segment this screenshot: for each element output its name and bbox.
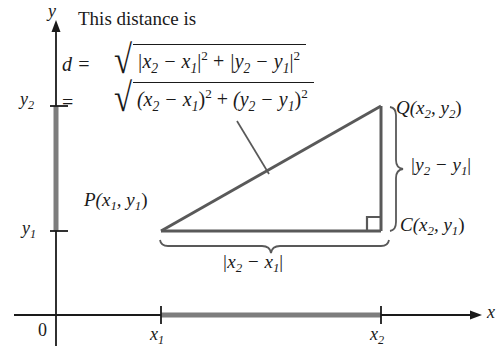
tick-label-y1-base: y <box>22 218 30 238</box>
hbrace-minus: − x <box>242 251 273 272</box>
vertical-brace-label: |y2 − y1| <box>410 155 471 178</box>
x-axis-arrowhead <box>470 311 482 320</box>
point-label-C-comma: , y <box>434 214 452 235</box>
formula-line-1: d = √ |x2 − x1|2 + |y2 − y1|2 <box>62 44 314 82</box>
f1-plus: + <box>208 50 229 72</box>
f2-t1-open: (x <box>137 88 153 110</box>
formula-line-1-radicand: |x2 − x1|2 + |y2 − y1|2 <box>133 44 306 77</box>
tick-label-y2-sub: 2 <box>28 98 34 112</box>
y-axis-arrowhead <box>52 20 61 32</box>
point-label-P: P(x1, y1) <box>84 190 148 213</box>
point-label-C-open: (x <box>413 214 428 235</box>
point-label-C-close: ) <box>458 214 464 235</box>
formula-line-2-radicand: (x2 − x1)2 + (y2 − y1)2 <box>133 82 314 115</box>
tick-label-x1-sub: 1 <box>158 333 164 347</box>
point-label-Q: Q(x2, y2) <box>396 98 462 121</box>
tick-label-x2-sub: 2 <box>378 333 384 347</box>
point-label-Q-open: (x <box>410 97 425 118</box>
origin-label: 0 <box>38 321 47 339</box>
f1-t2-sup: 2 <box>294 48 301 63</box>
radical-sign-icon-2: √ <box>114 82 132 115</box>
tick-label-x2: x2 <box>370 325 384 346</box>
f1-t2-open: |y <box>229 50 243 72</box>
tick-label-y1-sub: 1 <box>30 227 36 241</box>
hbrace-open: |x <box>222 251 236 272</box>
formula-line-1-lead: d = <box>62 44 114 76</box>
point-label-Q-comma: , y <box>431 97 449 118</box>
vbrace-close: | <box>467 154 471 175</box>
f2-t2-open: (y <box>233 88 249 110</box>
vbrace-open: |y <box>410 154 424 175</box>
radical-sign-icon: √ <box>114 44 132 77</box>
distance-formula: d = √ |x2 − x1|2 + |y2 − y1|2 = √ (x2 − … <box>62 44 314 120</box>
formula-line-1-radical: √ |x2 − x1|2 + |y2 − y1|2 <box>114 44 306 77</box>
tick-label-y2: y2 <box>20 90 34 111</box>
tick-label-y1: y1 <box>22 219 36 240</box>
hypotenuse-leader-line <box>237 121 269 174</box>
f1-t1-sup: 2 <box>201 48 208 63</box>
hbrace-close: | <box>279 251 283 272</box>
point-label-Q-name: Q <box>396 97 410 118</box>
point-label-P-open: (x <box>96 189 111 210</box>
tick-label-x2-base: x <box>370 324 378 344</box>
triangle-hypotenuse <box>161 106 381 231</box>
point-label-C: C(x2, y1) <box>400 215 465 238</box>
f2-t2-sup: 2 <box>301 86 308 101</box>
point-label-P-name: P <box>84 189 96 210</box>
f1-t1-open: |x <box>137 50 151 72</box>
vbrace-minus: − y <box>430 154 461 175</box>
f2-t2-sub2: 1 <box>288 99 295 114</box>
f1-t1-minus: − x <box>158 50 190 72</box>
formula-line-2: = √ (x2 − x1)2 + (y2 − y1)2 <box>62 82 314 120</box>
f2-plus: + <box>212 88 233 110</box>
formula-line-2-radical: √ (x2 − x1)2 + (y2 − y1)2 <box>114 82 314 115</box>
figure-caption: This distance is <box>78 9 196 28</box>
formula-line-2-lead: = <box>62 82 114 114</box>
tick-label-x1: x1 <box>150 325 164 346</box>
point-label-P-close: ) <box>141 189 147 210</box>
f1-t2-minus: − y <box>250 50 282 72</box>
distance-formula-figure: This distance is d = √ |x2 − x1|2 + |y2 … <box>0 0 503 360</box>
point-label-C-name: C <box>400 214 413 235</box>
x-axis-label: x <box>487 303 495 321</box>
y-axis-label: y <box>48 2 56 20</box>
tick-label-y2-base: y <box>20 89 28 109</box>
tick-label-x1-base: x <box>150 324 158 344</box>
right-angle-marker <box>367 217 381 231</box>
point-label-P-comma: , y <box>117 189 135 210</box>
f1-t2-sub2: 1 <box>283 61 290 76</box>
point-label-Q-close: ) <box>455 97 461 118</box>
f2-t1-sup: 2 <box>205 86 212 101</box>
vertical-brace <box>390 107 403 231</box>
horizontal-brace-label: |x2 − x1| <box>222 252 283 275</box>
f2-t1-minus: − x <box>159 88 191 110</box>
f2-t2-minus: − y <box>255 88 287 110</box>
